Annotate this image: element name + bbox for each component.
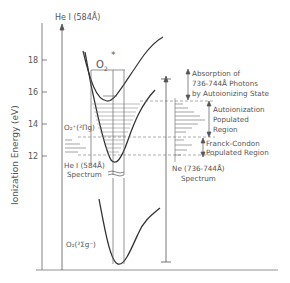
autoionization-label-2: Populated <box>213 115 249 124</box>
hei-spectrum-bars <box>65 140 86 152</box>
hei-spectrum-label-1: He I (584Å) <box>64 161 105 170</box>
o2-ground-curve <box>99 199 160 264</box>
potential-energy-diagram: 18 16 14 12 Ionization Energy (eV) He I … <box>0 0 290 283</box>
tick-12: 12 <box>28 152 38 161</box>
ne-spectrum-bars <box>175 98 205 162</box>
hei-top-label: He I (584Å) <box>55 11 100 22</box>
franck-condon-label-1: Franck-Condon <box>206 139 260 148</box>
tick-14: 14 <box>28 120 38 129</box>
o2-ion-state-label: O₂⁺(²Πg) <box>64 123 95 132</box>
hei-arrow <box>60 24 64 270</box>
axis-break <box>108 171 124 176</box>
o2-ground-state-label: O₂(³Σg⁻) <box>66 240 96 249</box>
autoionization-label-3: Region <box>213 125 238 134</box>
o2-star-curve <box>83 37 163 101</box>
tick-18: 18 <box>28 56 38 65</box>
franck-condon-label-2: Populated Region <box>206 148 269 157</box>
o2-star-label: O <box>96 59 104 70</box>
y-axis <box>42 23 47 270</box>
absorption-arrow <box>186 69 190 100</box>
ground-verticals <box>113 178 124 264</box>
svg-text:2: 2 <box>104 65 108 72</box>
ne-spectrum-label-2: Spectrum <box>181 174 216 183</box>
svg-text:*: * <box>111 50 116 60</box>
autoionization-arrow <box>207 101 211 137</box>
autoionization-label-1: Autoionization <box>213 105 265 114</box>
absorption-label-3: by Autoionizing State <box>192 89 270 98</box>
franck-condon-arrow <box>201 138 205 157</box>
ne-arrow <box>161 76 171 262</box>
tick-16: 16 <box>28 88 38 97</box>
y-axis-label: Ionization Energy (eV) <box>10 105 20 205</box>
absorption-label-1: Absorption of <box>192 69 241 78</box>
ne-spectrum-label-1: Ne (736-744Å) <box>172 164 225 173</box>
absorption-label-2: 736-744Å Photons <box>192 79 258 88</box>
hei-spectrum-label-2: Spectrum <box>67 170 102 179</box>
